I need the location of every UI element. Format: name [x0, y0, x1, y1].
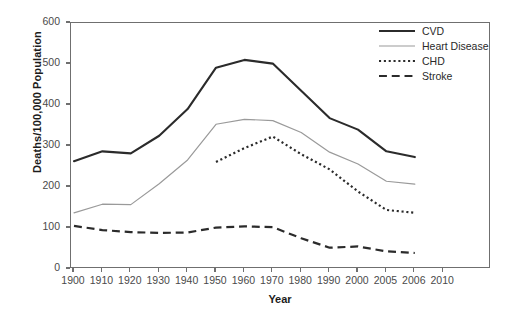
y-tick-mark — [66, 226, 70, 227]
x-tick-mark — [243, 268, 244, 272]
x-tick-mark — [186, 268, 187, 272]
x-tick-mark — [72, 268, 73, 272]
legend-item-heart-disease[interactable]: Heart Disease — [378, 39, 510, 54]
x-tick-label: 2010 — [422, 275, 462, 286]
y-tick-mark — [66, 21, 70, 22]
series-line-cvd — [74, 60, 415, 161]
x-tick-mark — [442, 268, 443, 272]
legend-label: Heart Disease — [422, 39, 489, 54]
legend-label: Stroke — [422, 69, 452, 84]
x-axis-title: Year — [70, 293, 490, 305]
y-tick-mark — [66, 185, 70, 186]
y-tick-label: 100 — [16, 221, 60, 231]
x-tick-mark — [129, 268, 130, 272]
legend-item-stroke[interactable]: Stroke — [378, 69, 510, 84]
y-tick-mark — [66, 62, 70, 63]
series-line-chd — [216, 137, 415, 213]
x-tick-mark — [300, 268, 301, 272]
x-tick-mark — [158, 268, 159, 272]
y-tick-mark — [66, 144, 70, 145]
x-tick-mark — [413, 268, 414, 272]
x-tick-mark — [271, 268, 272, 272]
legend-item-cvd[interactable]: CVD — [378, 24, 510, 39]
chart-figure: 0100200300400500600 19001910192019301940… — [0, 0, 514, 316]
x-tick-mark — [385, 268, 386, 272]
y-axis-title: Deaths/100,000 Population — [31, 2, 43, 202]
x-tick-mark — [356, 268, 357, 272]
x-tick-mark — [101, 268, 102, 272]
legend-item-chd[interactable]: CHD — [378, 54, 510, 69]
series-line-stroke — [74, 226, 415, 253]
y-tick-mark — [66, 103, 70, 104]
y-tick-label: 0 — [16, 262, 60, 272]
x-tick-mark — [214, 268, 215, 272]
chart-legend: CVDHeart DiseaseCHDStroke — [378, 24, 510, 84]
legend-label: CHD — [422, 54, 445, 69]
x-tick-mark — [328, 268, 329, 272]
legend-label: CVD — [422, 24, 444, 39]
y-tick-mark — [66, 267, 70, 268]
